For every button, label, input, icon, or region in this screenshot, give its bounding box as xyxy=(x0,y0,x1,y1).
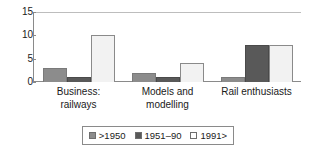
bar-group-rail-enthusiasts xyxy=(212,12,301,82)
bar-group-business-railways xyxy=(34,12,123,82)
y-tick-label-0: 0 xyxy=(9,77,33,87)
legend-item-1950[interactable]: >1950 xyxy=(89,131,126,141)
bar-rail-enthusiasts-1951-90[interactable] xyxy=(245,45,269,82)
bar-business-railways-1951-90[interactable] xyxy=(67,77,91,82)
legend: >1950 1951–90 1991> xyxy=(82,126,234,145)
y-tick-label-15: 15 xyxy=(9,7,33,17)
legend-swatch-icon-1991 xyxy=(190,132,197,139)
bar-rail-enthusiasts-1950[interactable] xyxy=(221,77,245,82)
bar-models-and-modelling-1951-90[interactable] xyxy=(156,77,180,82)
legend-item-1951-90[interactable]: 1951–90 xyxy=(135,131,182,141)
legend-swatch-icon-1950 xyxy=(89,132,96,139)
legend-label-1991: 1991> xyxy=(200,131,227,141)
bar-group-models-and-modelling xyxy=(123,12,212,82)
category-label-rail-enthusiasts: Rail enthusiasts xyxy=(212,86,301,118)
bar-models-and-modelling-1950[interactable] xyxy=(132,73,156,82)
category-labels: Business: railways Models and modelling … xyxy=(34,86,301,118)
bar-chart: 15 10 5 0 Business: railways Models and … xyxy=(0,0,312,154)
legend-swatch-icon-1951-90 xyxy=(135,132,142,139)
bar-groups xyxy=(34,12,301,82)
legend-label-1951-90: 1951–90 xyxy=(145,131,182,141)
y-tick-label-10: 10 xyxy=(9,30,33,40)
bar-business-railways-1991[interactable] xyxy=(91,35,115,82)
y-tick-mark-0 xyxy=(33,82,36,83)
y-axis: 15 10 5 0 xyxy=(0,12,33,82)
bar-business-railways-1950[interactable] xyxy=(43,68,67,82)
legend-item-1991[interactable]: 1991> xyxy=(190,131,227,141)
category-label-business-railways: Business: railways xyxy=(34,86,123,118)
legend-label-1950: >1950 xyxy=(99,131,126,141)
bar-rail-enthusiasts-1991[interactable] xyxy=(269,45,293,82)
category-label-models-and-modelling: Models and modelling xyxy=(123,86,212,118)
y-tick-label-5: 5 xyxy=(9,54,33,64)
bar-models-and-modelling-1991[interactable] xyxy=(180,63,204,82)
